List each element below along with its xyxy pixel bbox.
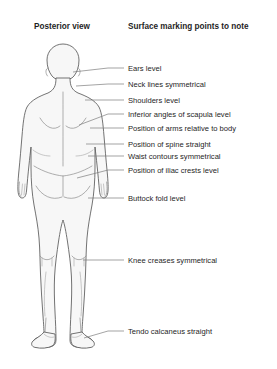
- left-foot-shape: [32, 332, 56, 348]
- head-shape: [47, 44, 79, 80]
- marking-label: Buttock fold level: [128, 194, 186, 203]
- posterior-view-diagram: Posterior view Surface marking points to…: [0, 0, 277, 369]
- marking-label: Inferior angles of scapula level: [128, 110, 231, 119]
- header-posterior-view: Posterior view: [34, 22, 91, 31]
- marking-callout: Tendo calcaneus straight: [84, 327, 213, 338]
- marking-callout: Neck lines symmetrical: [76, 80, 206, 89]
- marking-label: Ears level: [128, 64, 162, 73]
- human-body-figure: [18, 44, 108, 348]
- marking-label: Neck lines symmetrical: [128, 80, 206, 89]
- right-ear-icon: [78, 68, 80, 76]
- marking-callout: Knee creases symmetrical: [83, 256, 217, 265]
- marking-callout: Ears level: [73, 64, 162, 73]
- leader-line: [84, 331, 124, 338]
- marking-callout: Waist contours symmetrical: [88, 152, 221, 161]
- left-ear-icon: [46, 68, 48, 76]
- marking-callout: Shoulders level: [85, 96, 180, 105]
- leader-line: [76, 84, 124, 86]
- marking-label: Knee creases symmetrical: [128, 256, 217, 265]
- marking-label: Position of iliac crests level: [128, 166, 219, 175]
- header-surface-marking-points: Surface marking points to note: [128, 22, 249, 31]
- marking-label: Position of arms relative to body: [128, 124, 236, 133]
- marking-callout: Position of arms relative to body: [90, 124, 236, 133]
- marking-label: Position of spine straight: [128, 140, 212, 149]
- marking-label: Shoulders level: [128, 96, 180, 105]
- leader-line: [73, 68, 124, 72]
- marking-label: Waist contours symmetrical: [128, 152, 221, 161]
- marking-label: Tendo calcaneus straight: [128, 327, 213, 336]
- right-foot-shape: [71, 332, 95, 348]
